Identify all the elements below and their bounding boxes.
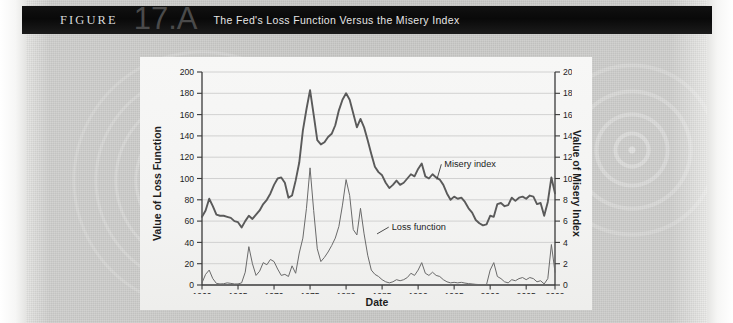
y-axis-right-tick-label: 12 xyxy=(563,152,572,162)
y-axis-left-tick-label: 160 xyxy=(180,110,195,120)
series-line-loss-function xyxy=(202,168,555,285)
y-axis-left-tick-label: 40 xyxy=(184,238,194,248)
x-axis-title: Date xyxy=(200,296,554,308)
figure-root: FIGURE 17.A The Fed's Loss Function Vers… xyxy=(0,0,733,323)
y-axis-right-tick-label: 4 xyxy=(563,238,568,248)
page-edge-right xyxy=(707,0,733,323)
y-axis-left-tick-label: 20 xyxy=(184,259,194,269)
annotation-leader-line xyxy=(437,164,441,179)
y-axis-right-tick-label: 8 xyxy=(563,195,568,205)
y-axis-left-tick-label: 200 xyxy=(180,67,195,77)
x-axis-tick-label: 1980 xyxy=(337,291,356,294)
y-axis-left-tick-label: 180 xyxy=(180,88,195,98)
y-axis-left-tick-label: 80 xyxy=(184,195,194,205)
x-axis-tick-label: 1970 xyxy=(264,291,283,294)
series-line-misery-index xyxy=(202,90,555,227)
y-axis-left-tick-label: 60 xyxy=(184,216,194,226)
figure-header-bar: FIGURE 17.A The Fed's Loss Function Vers… xyxy=(22,6,712,34)
y-axis-right-tick-label: 0 xyxy=(563,280,568,290)
x-axis-tick-label: 1975 xyxy=(300,291,319,294)
y-axis-right-tick-label: 2 xyxy=(563,259,568,269)
y-axis-left-tick-label: 140 xyxy=(180,131,195,141)
y-axis-left-tick-label: 100 xyxy=(180,174,195,184)
figure-title: The Fed's Loss Function Versus the Miser… xyxy=(214,14,460,26)
x-axis-tick-label: 2005 xyxy=(517,291,536,294)
x-axis-tick-label: 2009 xyxy=(545,291,564,294)
y-axis-right-tick-label: 10 xyxy=(563,174,572,184)
x-axis-tick-label: 1960 xyxy=(192,291,211,294)
annotation-label-misery-index: Misery index xyxy=(444,159,496,169)
y-axis-right-tick-label: 18 xyxy=(563,88,572,98)
y-axis-right-tick-label: 14 xyxy=(563,131,572,141)
y-axis-left-tick-label: 120 xyxy=(180,152,195,162)
figure-number: 17.A xyxy=(134,6,198,33)
y-axis-right-tick-label: 16 xyxy=(563,110,572,120)
x-axis-tick-label: 1965 xyxy=(228,291,247,294)
x-axis-tick-label: 1995 xyxy=(445,291,464,294)
y-axis-right-tick-label: 6 xyxy=(563,216,568,226)
y-axis-left-tick-label: 0 xyxy=(189,280,194,290)
y-axis-right-tick-label: 20 xyxy=(563,67,572,77)
x-axis-tick-label: 2000 xyxy=(481,291,500,294)
page-edge-left xyxy=(0,0,26,323)
annotation-leader-line xyxy=(377,227,389,234)
chart-plot: 0204060801001201401601802000246810121416… xyxy=(160,62,572,294)
x-axis-tick-label: 1985 xyxy=(373,291,392,294)
x-axis-tick-label: 1990 xyxy=(409,291,428,294)
figure-label: FIGURE xyxy=(60,13,118,28)
annotation-label-loss-function: Loss function xyxy=(392,222,446,232)
y-axis-right-title-text: Value of Misery Index xyxy=(571,130,583,237)
